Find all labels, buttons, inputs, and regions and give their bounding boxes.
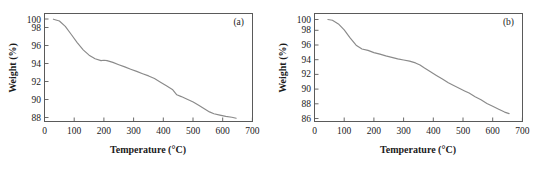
y-tick-label: 90 xyxy=(302,84,312,94)
y-tick-label: 96 xyxy=(302,40,312,50)
x-axis-title: Temperature (°C) xyxy=(110,144,186,156)
x-tick-label: 600 xyxy=(486,126,501,136)
x-tick-label: 100 xyxy=(337,126,352,136)
panel-a-xticks xyxy=(45,118,253,122)
panel-b: 86 88 90 92 94 96 98 100 Weight (%) xyxy=(270,0,540,169)
y-tick-label: 90 xyxy=(32,95,42,105)
y-axis-title: Weight (%) xyxy=(7,43,19,93)
y-tick-label: 92 xyxy=(302,69,312,79)
x-tick-label: 300 xyxy=(396,126,411,136)
panel-a-yticks xyxy=(45,19,49,118)
tga-figure: 88 90 92 94 96 98 100 100 Weight (%) xyxy=(0,0,540,169)
x-tick-label: 700 xyxy=(515,126,530,136)
x-tick-label: 0 xyxy=(312,126,317,136)
x-tick-label: 200 xyxy=(97,126,112,136)
y-tick-label-100: 100 xyxy=(27,15,42,25)
tga-curve-b xyxy=(328,20,509,114)
plot-frame xyxy=(45,14,253,122)
panel-b-xticklabels: 0 100 200 300 400 500 600 700 xyxy=(312,126,530,136)
y-tick-label: 88 xyxy=(302,99,312,109)
panel-a-xticklabels: 0 100 200 300 400 500 600 700 xyxy=(42,126,260,136)
y-tick-label: 88 xyxy=(32,113,42,123)
x-tick-label: 300 xyxy=(126,126,141,136)
x-tick-label: 0 xyxy=(42,126,47,136)
panel-a-plot: 88 90 92 94 96 98 100 100 Weight (%) xyxy=(0,0,270,169)
y-tick-label: 100 xyxy=(297,15,312,25)
panel-b-plot: 86 88 90 92 94 96 98 100 Weight (%) xyxy=(270,0,540,169)
x-tick-label: 100 xyxy=(67,126,82,136)
x-tick-label: 400 xyxy=(426,126,441,136)
y-axis-title: Weight (%) xyxy=(277,43,289,93)
y-tick-label: 94 xyxy=(32,59,42,69)
panel-b-xticks xyxy=(315,118,523,122)
x-tick-label: 600 xyxy=(216,126,231,136)
panel-b-label: (b) xyxy=(503,17,514,28)
panel-a-label: (a) xyxy=(233,17,244,28)
panel-a-yticklabels: 88 90 92 94 96 98 100 xyxy=(32,23,42,123)
x-tick-label: 400 xyxy=(156,126,171,136)
panel-b-yticks xyxy=(315,20,319,119)
y-tick-label: 98 xyxy=(302,25,312,35)
x-tick-label: 200 xyxy=(367,126,382,136)
tga-curve-a xyxy=(53,19,236,118)
x-tick-label: 500 xyxy=(186,126,201,136)
x-tick-label: 700 xyxy=(245,126,260,136)
y-tick-label: 86 xyxy=(302,114,312,124)
panel-b-yticklabels: 86 88 90 92 94 96 98 100 xyxy=(297,15,312,124)
x-axis-title: Temperature (°C) xyxy=(380,144,456,156)
y-tick-label: 94 xyxy=(302,55,312,65)
panel-a: 88 90 92 94 96 98 100 100 Weight (%) xyxy=(0,0,270,169)
x-tick-label: 500 xyxy=(456,126,471,136)
y-tick-label: 92 xyxy=(32,77,42,87)
y-tick-label: 96 xyxy=(32,41,42,51)
